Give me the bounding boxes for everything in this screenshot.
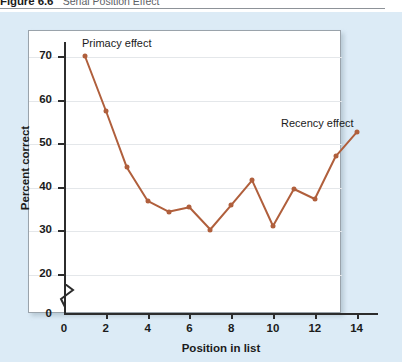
figure-panel: 203040506070002468101214 Percent correct… — [0, 12, 402, 362]
data-point — [271, 224, 276, 229]
annotation-recency-effect: Recency effect — [281, 117, 354, 129]
gridline — [29, 101, 342, 102]
figure-caption: Figure 6.6 Serial Position Effect — [0, 0, 402, 8]
plot-area — [28, 30, 341, 313]
gridline — [29, 57, 342, 58]
data-point — [333, 154, 338, 159]
axis-break-icon — [56, 284, 76, 314]
y-axis-tick — [58, 56, 64, 58]
y-axis-origin-label: 0 — [30, 307, 52, 319]
x-axis-tick-label: 14 — [347, 322, 367, 334]
gridline — [29, 144, 342, 145]
y-axis-line — [64, 42, 66, 313]
y-axis-tick-label: 40 — [30, 180, 52, 192]
x-axis-tick — [315, 313, 317, 319]
annotation-primacy-effect: Primacy effect — [82, 37, 152, 49]
y-axis-title: Percent correct — [19, 113, 31, 223]
data-point — [229, 203, 234, 208]
data-point — [103, 108, 108, 113]
y-axis-tick — [58, 100, 64, 102]
x-axis-tick-label: 8 — [221, 322, 241, 334]
data-point — [354, 130, 359, 135]
data-point — [166, 209, 171, 214]
gridline — [29, 275, 342, 276]
y-axis-tick-label: 50 — [30, 136, 52, 148]
data-point — [82, 54, 87, 59]
data-point — [145, 198, 150, 203]
data-point — [187, 205, 192, 210]
figure-title: Serial Position Effect — [63, 0, 160, 7]
x-axis-tick-label: 10 — [263, 322, 283, 334]
x-axis-tick-label: 12 — [305, 322, 325, 334]
x-axis-title: Position in list — [64, 342, 378, 354]
x-axis-tick — [231, 313, 233, 319]
header-divider — [0, 8, 385, 9]
x-axis-tick-label: 2 — [96, 322, 116, 334]
y-axis-tick — [58, 274, 64, 276]
y-axis-tick — [58, 187, 64, 189]
x-axis-tick-label: 4 — [138, 322, 158, 334]
y-axis-tick — [58, 143, 64, 145]
x-axis-tick — [148, 313, 150, 319]
x-axis-tick-label: 0 — [54, 322, 74, 334]
data-point — [312, 197, 317, 202]
x-axis-tick — [189, 313, 191, 319]
x-axis-tick — [273, 313, 275, 319]
y-axis-tick-label: 60 — [30, 93, 52, 105]
x-axis-tick — [357, 313, 359, 319]
data-point — [124, 165, 129, 170]
data-point — [208, 227, 213, 232]
x-axis-line — [64, 313, 378, 315]
x-axis-tick-label: 6 — [179, 322, 199, 334]
y-axis-tick — [58, 230, 64, 232]
y-axis-tick-label: 20 — [30, 267, 52, 279]
y-axis-tick-label: 30 — [30, 223, 52, 235]
x-axis-tick — [106, 313, 108, 319]
y-axis-tick-label: 70 — [30, 49, 52, 61]
data-point — [291, 186, 296, 191]
figure-number: Figure 6.6 — [0, 0, 53, 7]
data-point — [250, 178, 255, 183]
gridline — [29, 231, 342, 232]
